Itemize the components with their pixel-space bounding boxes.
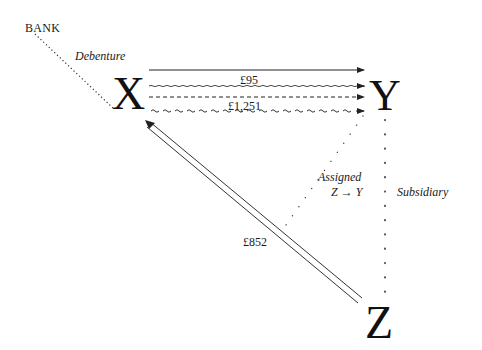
- node-x: X: [112, 71, 145, 117]
- double-arrow-z-x-b: [147, 127, 358, 303]
- double-arrow-head: [145, 120, 155, 129]
- subsidiary-label: Subsidiary: [397, 186, 448, 198]
- assigned-label: Assigned: [318, 171, 361, 183]
- node-y: Y: [369, 74, 401, 118]
- bank-label: BANK: [25, 22, 60, 34]
- diagram-lines: [0, 0, 482, 350]
- assigned-direction-label: Z → Y: [331, 186, 362, 198]
- amount-95-label: £95: [240, 74, 258, 86]
- double-arrow-z-x-a: [150, 122, 362, 298]
- node-z: Z: [365, 300, 393, 346]
- debenture-line: [35, 34, 113, 108]
- amount-852-label: £852: [243, 236, 267, 248]
- amount-1251-label: £1,251: [228, 100, 261, 112]
- legal-diagram: BANK X Y Z Debenture £95 £1,251 £852 Ass…: [0, 0, 482, 350]
- debenture-label: Debenture: [75, 50, 125, 62]
